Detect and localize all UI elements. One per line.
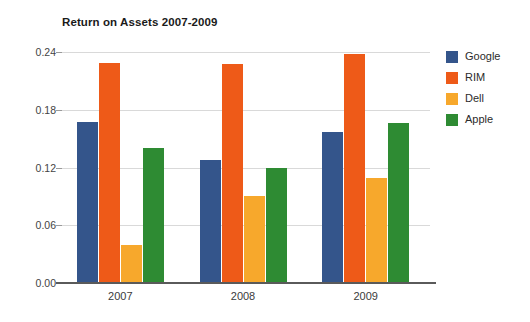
y-axis-label: 0.18: [16, 104, 56, 116]
bar-rim-2007[interactable]: [99, 63, 120, 283]
y-axis-tick: [56, 225, 62, 226]
bar-dell-2009[interactable]: [366, 178, 387, 283]
legend-swatch-dell: [446, 93, 458, 105]
legend-item-rim[interactable]: RIM: [446, 71, 500, 84]
y-axis-label: 0.06: [16, 219, 56, 231]
x-axis-label-2009: 2009: [353, 290, 377, 302]
bar-apple-2009[interactable]: [388, 123, 409, 283]
legend-label-rim: RIM: [465, 71, 485, 84]
bar-rim-2009[interactable]: [344, 54, 365, 283]
legend-swatch-apple: [446, 114, 458, 126]
x-axis-line: [56, 282, 436, 284]
legend-swatch-rim: [446, 72, 458, 84]
x-axis-label-2007: 2007: [108, 290, 132, 302]
bar-apple-2008[interactable]: [266, 168, 287, 283]
bar-google-2009[interactable]: [322, 132, 343, 283]
legend-item-apple[interactable]: Apple: [446, 113, 500, 126]
chart-container: Return on Assets 2007-2009 0.000.060.120…: [0, 0, 530, 322]
bar-dell-2007[interactable]: [121, 245, 142, 284]
bar-group-2007: [77, 52, 164, 283]
chart-legend: GoogleRIMDellApple: [446, 50, 500, 126]
y-axis-tick: [56, 52, 62, 53]
legend-label-google: Google: [465, 50, 500, 63]
legend-label-dell: Dell: [465, 92, 484, 105]
bar-google-2007[interactable]: [77, 122, 98, 283]
bar-dell-2008[interactable]: [244, 196, 265, 283]
bar-apple-2007[interactable]: [143, 148, 164, 283]
x-axis-label-2008: 2008: [231, 290, 255, 302]
bar-group-2008: [200, 52, 287, 283]
bar-google-2008[interactable]: [200, 160, 221, 283]
y-axis-tick: [56, 168, 62, 169]
y-axis-label: 0.24: [16, 46, 56, 58]
legend-item-google[interactable]: Google: [446, 50, 500, 63]
y-axis-label: 0.00: [16, 277, 56, 289]
y-axis-tick: [56, 110, 62, 111]
chart-title: Return on Assets 2007-2009: [62, 16, 218, 28]
plot-area: [62, 52, 430, 283]
bar-group-2009: [322, 52, 409, 283]
y-axis-label: 0.12: [16, 162, 56, 174]
legend-label-apple: Apple: [465, 113, 493, 126]
legend-item-dell[interactable]: Dell: [446, 92, 500, 105]
legend-swatch-google: [446, 51, 458, 63]
bar-rim-2008[interactable]: [222, 64, 243, 283]
